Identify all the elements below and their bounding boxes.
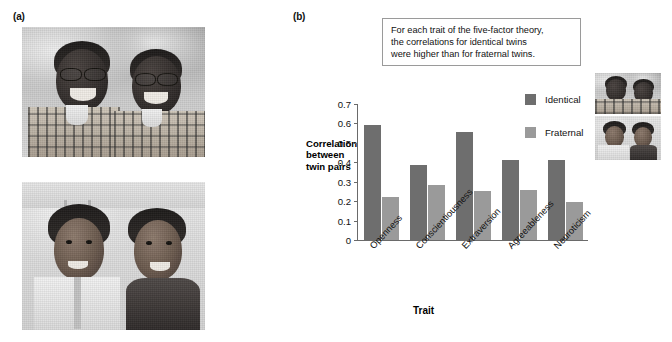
legend-label-fraternal: Fraternal xyxy=(545,127,583,138)
y-tick-mark xyxy=(354,201,358,202)
glasses-left-lens-a xyxy=(60,68,82,81)
identical-twins-photo xyxy=(22,27,205,157)
y-tick-mark xyxy=(354,143,358,144)
face-young-woman xyxy=(134,220,182,280)
y-tick-label: 0.6 xyxy=(338,118,351,129)
y-tick-mark xyxy=(354,240,358,241)
thumb-top-woman xyxy=(630,145,657,160)
thumb-face-man xyxy=(605,126,624,147)
photo-wall-top xyxy=(22,182,205,208)
x-axis-title: Trait xyxy=(413,305,434,316)
y-tick-label: 0.5 xyxy=(338,137,351,148)
callout-line-3: were higher than for fraternal twins. xyxy=(391,48,573,60)
smile-right-twin xyxy=(144,92,168,104)
callout-box: For each trait of the five-factor theory… xyxy=(382,18,581,66)
y-tick-mark xyxy=(354,123,358,124)
legend-swatch-fraternal xyxy=(525,127,536,138)
eye-left-man xyxy=(66,240,72,244)
y-tick-mark xyxy=(354,182,358,183)
glasses-left-lens-b xyxy=(135,73,156,86)
y-axis-title-line-3: twin pairs xyxy=(306,161,416,172)
shirt-placket xyxy=(74,277,81,329)
y-axis-title: Correlation between twin pairs xyxy=(306,138,416,172)
glasses-right-lens-b xyxy=(157,73,178,86)
bar-conscientiousness-identical[interactable] xyxy=(410,165,427,240)
collar-left xyxy=(66,105,88,125)
legend-label-identical: Identical xyxy=(545,94,581,105)
smile-left-twin xyxy=(70,88,96,101)
callout-line-2: the correlations for identical twins xyxy=(391,36,573,48)
eye-right-woman xyxy=(166,241,172,245)
thumbnail-fraternal-twins xyxy=(595,116,661,160)
bar-extraversion-identical[interactable] xyxy=(456,132,473,240)
panel-a-label: (a) xyxy=(13,11,25,22)
y-tick-mark xyxy=(354,221,358,222)
callout-line-1: For each trait of the five-factor theory… xyxy=(391,24,573,36)
y-tick-label: 0 xyxy=(346,235,351,246)
plot-area: Correlation between twin pairs 00.10.20.… xyxy=(357,104,588,241)
panel-b-label: (b) xyxy=(293,11,305,22)
y-tick-label: 0.4 xyxy=(338,157,351,168)
legend-item-fraternal[interactable]: Fraternal xyxy=(525,127,583,138)
glasses-right-lens-a xyxy=(84,68,106,81)
thumb-face-woman xyxy=(634,127,652,147)
thumbnail-identical-twins xyxy=(595,73,661,114)
y-tick-label: 0.7 xyxy=(338,99,351,110)
dark-top-woman xyxy=(126,278,200,330)
y-axis-title-line-2: between xyxy=(306,149,416,160)
thumb-plaid xyxy=(595,99,661,114)
y-tick-label: 0.1 xyxy=(338,215,351,226)
eye-left-woman xyxy=(146,241,152,245)
bar-agreeableness-identical[interactable] xyxy=(502,160,519,240)
smile-young-man xyxy=(68,261,88,269)
fraternal-twins-photo xyxy=(22,182,205,330)
eye-right-man xyxy=(86,240,92,244)
smile-young-woman xyxy=(150,262,170,271)
y-tick-label: 0.3 xyxy=(338,176,351,187)
chart-panel: (b) For each trait of the five-factor th… xyxy=(293,8,672,342)
thumb-shirt-man xyxy=(598,145,629,160)
figure-root: (a) xyxy=(0,0,672,342)
y-tick-label: 0.2 xyxy=(338,196,351,207)
bar-openness-identical[interactable] xyxy=(364,125,381,240)
y-axis-title-line-1: Correlation xyxy=(306,138,416,149)
legend-swatch-identical xyxy=(525,94,536,105)
legend-item-identical[interactable]: Identical xyxy=(525,94,581,105)
thumb-face-1 xyxy=(606,79,626,101)
face-young-man xyxy=(54,218,104,280)
collar-right xyxy=(142,109,162,127)
y-tick-mark xyxy=(354,162,358,163)
y-tick-mark xyxy=(354,104,358,105)
